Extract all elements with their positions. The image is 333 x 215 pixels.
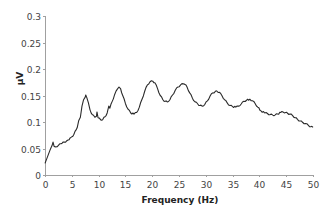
x-tick-label: 30: [201, 180, 213, 190]
x-tick-label: 5: [70, 180, 76, 190]
y-tick-label: 0.15: [21, 92, 41, 102]
x-ticks: 05101520253035404550: [43, 175, 320, 190]
y-ticks: 00.050.10.150.20.250.3: [21, 12, 45, 181]
x-tick-label: 10: [94, 180, 106, 190]
series-group: [45, 81, 313, 164]
y-tick-label: 0.3: [27, 12, 41, 22]
x-tick-label: 15: [120, 180, 131, 190]
x-tick-label: 0: [43, 180, 49, 190]
y-axis-title: μV: [15, 72, 25, 86]
x-tick-label: 25: [174, 180, 185, 190]
y-tick-label: 0.05: [21, 145, 41, 155]
y-tick-label: 0.1: [27, 118, 41, 128]
x-tick-label: 35: [228, 180, 239, 190]
series-line-spectrum: [45, 81, 313, 164]
line-chart: 00.050.10.150.20.250.3 05101520253035404…: [0, 0, 333, 215]
x-tick-label: 50: [308, 180, 320, 190]
y-tick-label: 0.25: [21, 39, 41, 49]
y-tick-label: 0.2: [27, 65, 41, 75]
x-tick-label: 20: [147, 180, 159, 190]
x-axis-title: Frequency (Hz): [142, 195, 219, 205]
x-tick-label: 40: [254, 180, 266, 190]
y-tick-label: 0: [35, 171, 41, 181]
x-tick-label: 45: [281, 180, 292, 190]
